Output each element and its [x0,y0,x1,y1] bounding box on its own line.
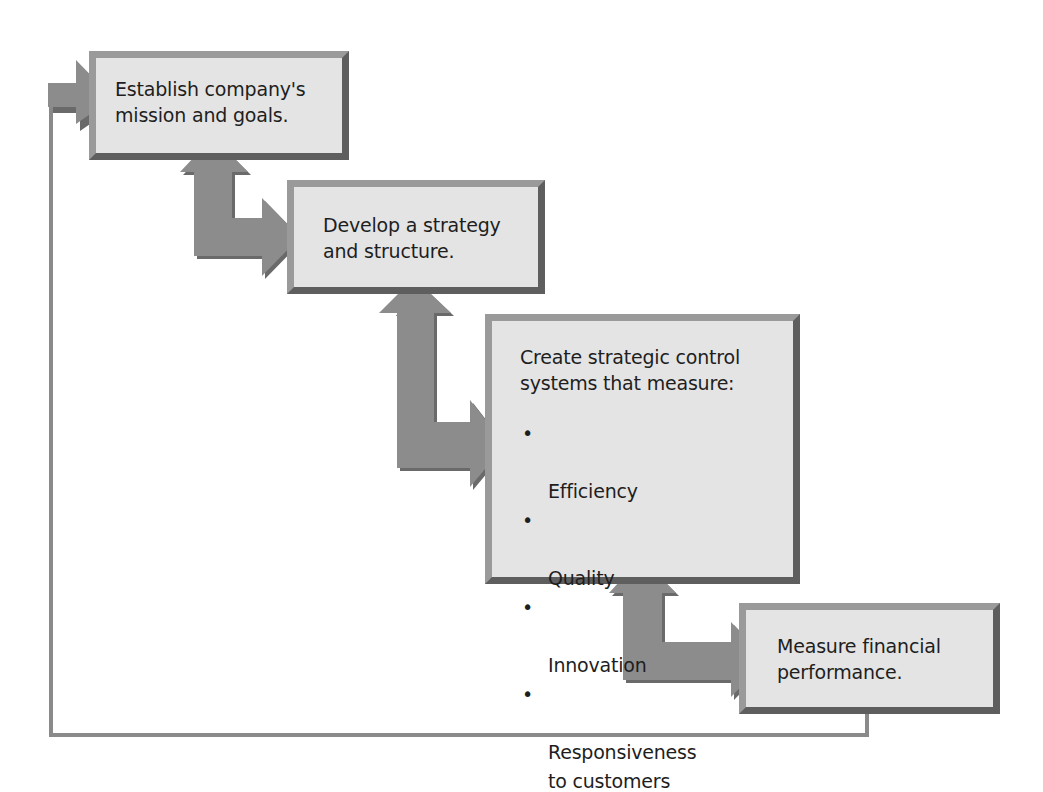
list-item-label: Quality [548,567,615,589]
step-label: Establish company's mission and goals. [115,76,306,128]
step-box-develop-strategy: Develop a strategy and structure. [287,180,545,294]
measure-list: • Efficiency • Quality • Innovation • Re… [520,419,697,792]
bullet-icon: • [522,680,533,709]
step-box-control-systems: Create strategic control systems that me… [485,314,800,584]
list-item-label: Innovation [548,654,647,676]
step-label: Develop a strategy and structure. [323,212,501,264]
list-item: • Responsiveness to customers [520,680,697,792]
bullet-icon: • [522,419,533,448]
bullet-icon: • [522,506,533,535]
step-box-establish-mission: Establish company's mission and goals. [89,51,349,160]
list-item: • Quality [520,506,697,593]
step-label: Create strategic control systems that me… [520,344,740,396]
list-item-label: Efficiency [548,480,638,502]
list-item: • Innovation [520,593,697,680]
step-label: Measure financial performance. [777,633,941,685]
list-item: • Efficiency [520,419,697,506]
bullet-icon: • [522,593,533,622]
list-item-label: Responsiveness to customers [548,741,697,792]
step-box-measure-financial: Measure financial performance. [739,603,1000,714]
